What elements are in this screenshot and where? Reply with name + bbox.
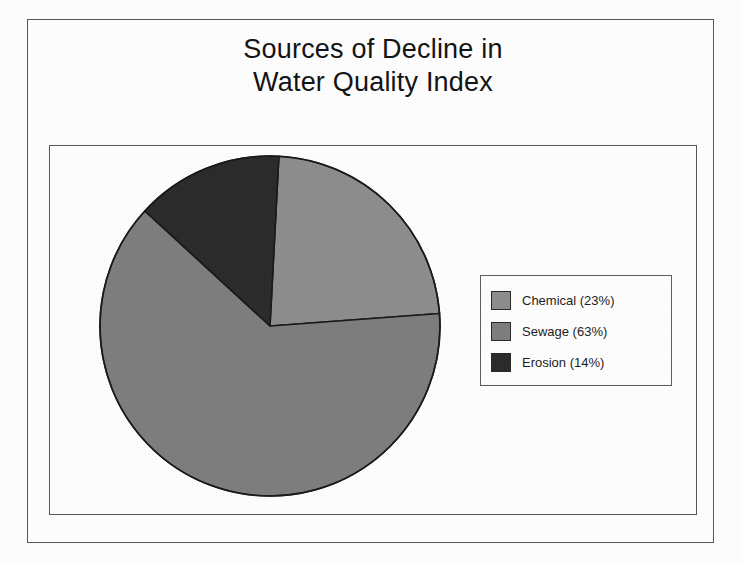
legend-swatch-chemical — [491, 291, 511, 310]
legend-item-chemical[interactable]: Chemical (23%) — [491, 285, 671, 316]
legend-swatch-erosion — [491, 353, 511, 372]
legend-label-erosion: Erosion (14%) — [522, 355, 604, 370]
legend-label-chemical: Chemical (23%) — [522, 293, 614, 308]
legend-label-sewage: Sewage (63%) — [522, 324, 607, 339]
chart-legend: Chemical (23%) Sewage (63%) Erosion (14%… — [480, 275, 672, 386]
legend-swatch-sewage — [491, 322, 511, 341]
chart-title: Sources of Decline in Water Quality Inde… — [49, 33, 697, 99]
chart-title-line-1: Sources of Decline in — [49, 33, 697, 66]
legend-item-erosion[interactable]: Erosion (14%) — [491, 347, 671, 378]
legend-item-sewage[interactable]: Sewage (63%) — [491, 316, 671, 347]
chart-title-line-2: Water Quality Index — [49, 66, 697, 99]
scanned-page-surface: Sources of Decline in Water Quality Inde… — [0, 0, 743, 562]
